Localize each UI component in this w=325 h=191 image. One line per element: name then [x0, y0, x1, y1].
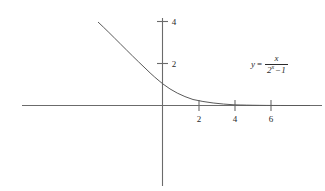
- graph-canvas: 2 4 6 2 4: [0, 0, 325, 191]
- x-tick-label-6: 6: [269, 114, 274, 124]
- y-tick-label-2: 2: [172, 59, 177, 69]
- denominator-term: 1: [281, 66, 286, 75]
- equation-fraction: x 2x−1: [265, 54, 288, 75]
- denominator-operator: −: [274, 66, 281, 75]
- y-tick-label-4: 4: [172, 17, 177, 27]
- fraction-denominator: 2x−1: [265, 65, 288, 75]
- x-tick-label-4: 4: [233, 114, 238, 124]
- function-graph-figure: 2 4 6 2 4 y = x 2x−1: [0, 0, 325, 191]
- equation-lhs: y: [251, 60, 255, 69]
- function-equation-label: y = x 2x−1: [251, 54, 288, 75]
- equation-equals-sign: =: [257, 60, 262, 69]
- fraction-numerator: x: [270, 54, 282, 64]
- denominator-exponent: x: [272, 64, 275, 70]
- x-tick-label-2: 2: [197, 114, 202, 124]
